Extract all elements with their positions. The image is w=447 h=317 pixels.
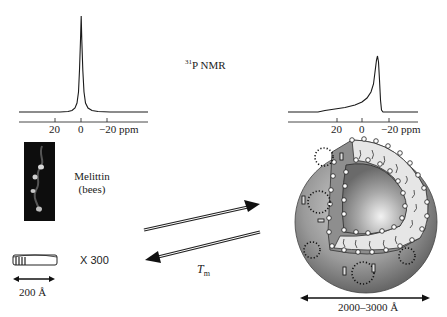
vesicle-size-label: 2000–3000 Å (338, 301, 396, 314)
vesicle-icon (0, 0, 447, 317)
